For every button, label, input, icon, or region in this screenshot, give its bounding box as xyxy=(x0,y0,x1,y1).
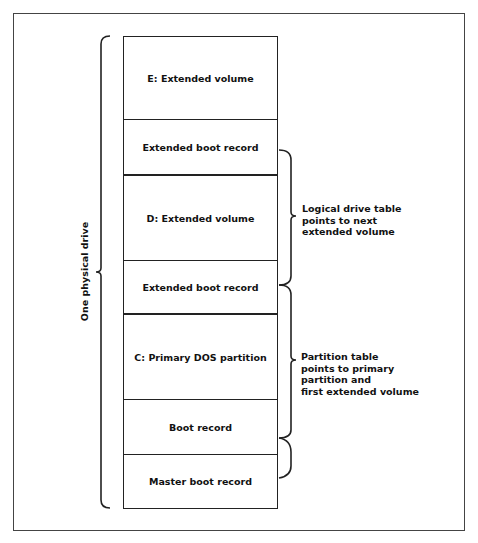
note-line: Logical drive table xyxy=(302,203,401,215)
partition-table-brace-icon xyxy=(279,285,296,438)
row-extended-boot-record-2: Extended boot record xyxy=(123,260,278,313)
row-label: E: Extended volume xyxy=(147,73,253,84)
row-extended-boot-record-1: Extended boot record xyxy=(123,119,278,174)
mbr-brace-icon xyxy=(279,438,291,478)
row-d-extended-volume: D: Extended volume xyxy=(123,174,278,260)
row-label: Master boot record xyxy=(149,476,252,487)
row-label: D: Extended volume xyxy=(147,213,255,224)
logical-table-brace-icon xyxy=(279,150,296,285)
row-c-primary-dos-partition: C: Primary DOS partition xyxy=(123,313,278,399)
row-label: Boot record xyxy=(169,422,232,433)
physical-drive-label: One physical drive xyxy=(79,212,90,332)
row-label: C: Primary DOS partition xyxy=(134,352,266,363)
note-line: Partition table xyxy=(301,351,419,363)
row-boot-record: Boot record xyxy=(123,399,278,454)
note-line: first extended volume xyxy=(301,386,419,398)
note-line: points to primary xyxy=(301,363,419,375)
logical-drive-table-note: Logical drive table points to next exten… xyxy=(302,203,401,238)
note-line: partition and xyxy=(301,374,419,386)
note-line: points to next xyxy=(302,215,401,227)
row-label: Extended boot record xyxy=(142,142,258,153)
partition-table-note: Partition table points to primary partit… xyxy=(301,351,419,397)
row-e-extended-volume: E: Extended volume xyxy=(123,36,278,119)
physical-drive-brace-icon xyxy=(96,36,110,508)
note-line: extended volume xyxy=(302,226,401,238)
row-master-boot-record: Master boot record xyxy=(123,454,278,509)
row-label: Extended boot record xyxy=(142,282,258,293)
